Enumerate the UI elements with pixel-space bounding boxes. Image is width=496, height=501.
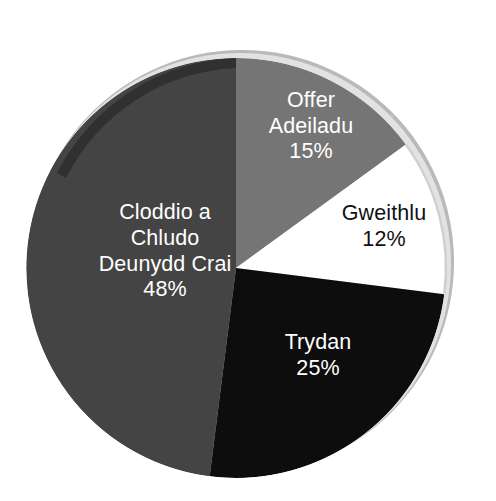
pie-slice-trydan [210, 268, 445, 478]
pie-chart-svg [0, 0, 496, 501]
pie-chart: Offer Adeiladu 15% Gweithlu 12% Trydan 2… [0, 0, 496, 501]
scan-speck [391, 115, 394, 118]
pie-slice-cloddio [26, 58, 236, 476]
